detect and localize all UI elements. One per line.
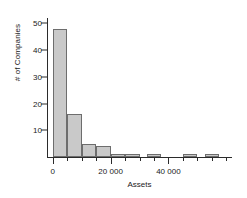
y-axis-tick-mark — [41, 23, 47, 24]
y-axis-tick-mark — [41, 76, 47, 77]
x-axis-minor-tick-mark — [226, 158, 227, 161]
x-axis-tick-label: 20 000 — [98, 167, 122, 176]
histogram-chart: # of Companies 1020304050 020 00040 000 … — [0, 0, 247, 198]
y-axis-tick-mark — [41, 103, 47, 104]
y-axis-tick-mark — [41, 130, 47, 131]
histogram-bar — [183, 154, 197, 157]
y-axis-tick-label: 40 — [24, 46, 42, 55]
x-axis-tick-label: 0 — [51, 167, 55, 176]
x-axis-tick-mark — [168, 158, 169, 164]
histogram-bar — [111, 154, 125, 157]
x-axis-minor-tick-mark — [82, 158, 83, 161]
histogram-bar — [125, 154, 139, 157]
x-axis-minor-tick-mark — [125, 158, 126, 161]
x-axis-minor-tick-mark — [140, 158, 141, 161]
x-axis-label-text: Assets — [127, 180, 151, 189]
y-axis-tick-label: 20 — [24, 99, 42, 108]
y-axis-tick-labels: 1020304050 — [22, 0, 42, 198]
histogram-bar — [96, 146, 110, 157]
y-axis-tick-label: 30 — [24, 72, 42, 81]
x-axis-tick-mark — [53, 158, 54, 164]
x-axis-minor-tick-mark — [197, 158, 198, 161]
x-axis-minor-tick-mark — [183, 158, 184, 161]
y-axis-tick-label: 50 — [24, 19, 42, 28]
histogram-bar — [82, 144, 96, 157]
x-axis-minor-tick-mark — [154, 158, 155, 161]
histogram-bar — [147, 154, 161, 157]
x-axis-minor-tick-mark — [67, 158, 68, 161]
y-axis-tick-mark — [41, 50, 47, 51]
y-axis-tick-label: 10 — [24, 126, 42, 135]
histogram-bar — [67, 114, 81, 157]
histogram-bars — [47, 18, 232, 157]
histogram-bar — [205, 154, 219, 157]
y-axis-label: # of Companies — [13, 0, 22, 108]
x-axis-label: Assets — [0, 180, 247, 189]
x-axis-minor-tick-mark — [212, 158, 213, 161]
histogram-bar — [53, 29, 67, 157]
x-axis-tick-label: 40 000 — [156, 167, 180, 176]
x-axis-tick-mark — [111, 158, 112, 164]
x-axis-minor-tick-mark — [96, 158, 97, 161]
